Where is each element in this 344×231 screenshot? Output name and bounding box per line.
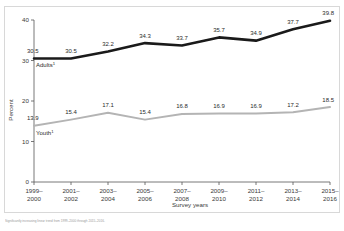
data-label: 16.8 — [176, 103, 188, 109]
data-point-labels: 30.530.532.234.333.735.734.937.739.813.9… — [27, 10, 335, 121]
x-tick-labels: 1999–20002001–20022003–20042005–20062007… — [25, 187, 339, 202]
top-trim-artifact — [60, 0, 290, 4]
x-tick-label: 2003– — [99, 187, 117, 194]
data-label: 33.7 — [176, 35, 188, 41]
data-label: 18.5 — [322, 97, 334, 103]
chart-figure: 010203040 1999–20002001–20022003–2004200… — [0, 0, 344, 231]
x-tick-label: 2012 — [249, 195, 263, 202]
data-label: 34.9 — [250, 30, 262, 36]
x-tick-label: 2014 — [286, 195, 300, 202]
x-tick-group — [34, 182, 330, 185]
y-tick-group: 010203040 — [22, 16, 34, 185]
series-label-youth: Youth1 — [36, 129, 54, 136]
x-tick-label: 2005– — [136, 187, 154, 194]
chart-footnote: Significantly increasing linear trend fr… — [5, 219, 265, 223]
data-label: 13.9 — [27, 115, 39, 121]
x-tick-label: 2013– — [284, 187, 302, 194]
y-tick-label: 20 — [22, 97, 29, 104]
x-tick-label: 2016 — [323, 195, 337, 202]
x-tick-label: 2007– — [173, 187, 191, 194]
x-axis-title: Survey years — [172, 201, 208, 208]
data-label: 17.2 — [287, 102, 299, 108]
data-label: 15.4 — [139, 109, 151, 115]
x-tick-label: 2009– — [210, 187, 228, 194]
line-chart-plot: 010203040 1999–20002001–20022003–2004200… — [4, 6, 340, 213]
data-label: 34.3 — [139, 33, 151, 39]
data-label: 16.9 — [250, 103, 262, 109]
x-tick-label: 2015– — [321, 187, 339, 194]
x-tick-label: 2000 — [27, 195, 41, 202]
x-tick-label: 2002 — [64, 195, 78, 202]
y-tick-label: 10 — [22, 138, 29, 145]
data-label: 17.1 — [102, 102, 114, 108]
y-tick-label: 40 — [22, 16, 29, 23]
data-label: 30.5 — [27, 48, 39, 54]
data-label: 16.9 — [213, 103, 225, 109]
x-tick-label: 2011– — [248, 187, 265, 194]
x-tick-label: 1999– — [25, 187, 43, 194]
x-tick-label: 2001– — [62, 187, 80, 194]
y-axis-title: Percent — [7, 99, 14, 121]
x-tick-label: 2004 — [101, 195, 115, 202]
data-label: 30.5 — [65, 48, 77, 54]
x-tick-label: 2010 — [212, 195, 226, 202]
data-label: 39.8 — [322, 10, 334, 16]
series-label-adults: Adults1 — [36, 61, 56, 68]
data-label: 35.7 — [213, 27, 225, 33]
y-tick-label: 0 — [26, 178, 30, 185]
data-label: 32.2 — [102, 41, 114, 47]
y-tick-label: 30 — [22, 57, 29, 64]
series-line-youth — [34, 107, 330, 126]
data-label: 37.7 — [287, 19, 299, 25]
x-tick-label: 2006 — [138, 195, 152, 202]
data-label: 15.4 — [65, 109, 77, 115]
